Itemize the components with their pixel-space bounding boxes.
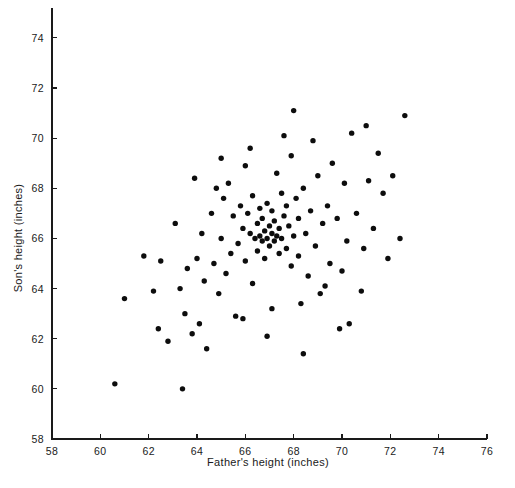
data-point <box>320 221 325 226</box>
data-point <box>291 108 296 113</box>
data-point <box>218 156 223 161</box>
data-point <box>308 208 313 213</box>
data-point <box>262 228 267 233</box>
data-point <box>344 238 349 243</box>
data-point <box>211 261 216 266</box>
data-point <box>284 246 289 251</box>
data-point <box>260 238 265 243</box>
y-tick-label-62: 62 <box>32 333 44 345</box>
data-point <box>238 203 243 208</box>
data-point <box>240 226 245 231</box>
data-point <box>267 223 272 228</box>
data-point <box>243 258 248 263</box>
data-point <box>318 291 323 296</box>
data-point <box>221 196 226 201</box>
data-point <box>272 238 277 243</box>
data-point <box>279 191 284 196</box>
data-point <box>291 233 296 238</box>
data-point <box>141 253 146 258</box>
x-tick-label-70: 70 <box>336 445 348 457</box>
data-point <box>257 206 262 211</box>
y-axis-title: Son's height (inches) <box>12 184 24 293</box>
data-point <box>296 253 301 258</box>
data-point <box>334 216 339 221</box>
data-point <box>276 251 281 256</box>
data-point <box>158 258 163 263</box>
x-tick-label-58: 58 <box>46 445 58 457</box>
data-point <box>185 266 190 271</box>
data-point <box>199 231 204 236</box>
y-tick-label-60: 60 <box>32 383 44 395</box>
data-point <box>361 246 366 251</box>
data-point <box>284 203 289 208</box>
data-point <box>233 313 238 318</box>
data-point <box>218 236 223 241</box>
data-point <box>339 268 344 273</box>
data-point <box>250 281 255 286</box>
data-point <box>247 145 252 150</box>
data-point <box>250 193 255 198</box>
x-tick-label-60: 60 <box>94 445 106 457</box>
data-point <box>264 201 269 206</box>
y-tick-label-72: 72 <box>32 82 44 94</box>
y-tick-label-70: 70 <box>32 132 44 144</box>
data-point <box>402 113 407 118</box>
x-tick-label-74: 74 <box>432 445 444 457</box>
data-point <box>390 173 395 178</box>
data-point <box>376 151 381 156</box>
data-point <box>349 130 354 135</box>
data-point <box>269 231 274 236</box>
data-point <box>337 326 342 331</box>
data-point <box>354 211 359 216</box>
data-point <box>327 261 332 266</box>
data-point <box>298 301 303 306</box>
data-point <box>315 173 320 178</box>
data-point <box>366 178 371 183</box>
data-point <box>247 231 252 236</box>
data-point <box>301 351 306 356</box>
axis-tick-labels-group: 58606264666870727476586062646668707274 <box>32 32 494 457</box>
data-point <box>276 226 281 231</box>
data-point <box>151 288 156 293</box>
data-point <box>255 248 260 253</box>
data-point <box>257 233 262 238</box>
data-point <box>240 316 245 321</box>
data-point <box>112 381 117 386</box>
data-point <box>301 186 306 191</box>
data-point <box>274 171 279 176</box>
data-point <box>204 346 209 351</box>
data-point <box>325 203 330 208</box>
data-point <box>235 241 240 246</box>
data-point <box>226 181 231 186</box>
data-point <box>281 213 286 218</box>
data-point <box>231 213 236 218</box>
data-point <box>380 191 385 196</box>
data-point <box>342 181 347 186</box>
y-tick-label-68: 68 <box>32 182 44 194</box>
data-point <box>182 311 187 316</box>
data-point <box>397 236 402 241</box>
y-tick-label-64: 64 <box>32 283 44 295</box>
data-point <box>173 221 178 226</box>
data-point <box>177 286 182 291</box>
data-point <box>260 216 265 221</box>
data-point <box>122 296 127 301</box>
data-point <box>274 233 279 238</box>
data-point <box>209 211 214 216</box>
data-point <box>296 216 301 221</box>
data-point <box>269 208 274 213</box>
y-tick-label-58: 58 <box>32 433 44 445</box>
data-point <box>223 271 228 276</box>
data-point <box>347 321 352 326</box>
data-point <box>281 133 286 138</box>
data-point <box>228 251 233 256</box>
data-point <box>180 386 185 391</box>
x-tick-label-62: 62 <box>142 445 154 457</box>
data-point <box>305 273 310 278</box>
data-point <box>310 138 315 143</box>
data-point <box>194 256 199 261</box>
data-point <box>269 306 274 311</box>
data-point <box>289 263 294 268</box>
data-point <box>264 236 269 241</box>
x-tick-label-64: 64 <box>191 445 203 457</box>
